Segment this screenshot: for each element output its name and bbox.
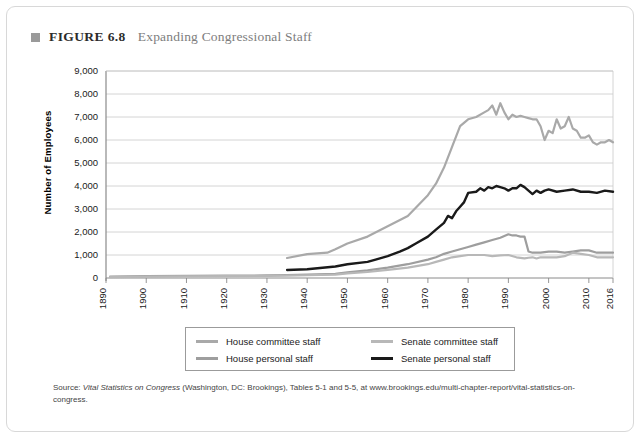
x-axis-tick-label: 1920: [218, 288, 229, 309]
x-axis-tick-label: 2000: [540, 288, 551, 309]
legend-row: House personal staff Senate personal sta…: [196, 350, 504, 367]
x-axis-tick-label: 2010: [580, 288, 591, 309]
legend-item-senate-personal-staff[interactable]: Senate personal staff: [371, 353, 491, 364]
legend-item-house-personal-staff[interactable]: House personal staff: [196, 353, 371, 364]
x-axis-tick-label: 1910: [178, 288, 189, 309]
legend-swatch-icon: [196, 340, 218, 343]
x-axis-tick-label: 1980: [459, 288, 470, 309]
y-axis-tick-label: 3,000: [74, 203, 98, 214]
x-axis-tick-label: 1950: [338, 288, 349, 309]
legend-label: Senate personal staff: [401, 353, 491, 364]
legend-item-senate-committee-staff[interactable]: Senate committee staff: [371, 336, 498, 347]
legend-label: Senate committee staff: [401, 336, 498, 347]
x-axis-tick-label: 2016: [604, 288, 615, 309]
x-axis-tick-label: 1900: [137, 288, 148, 309]
y-axis-tick-label: 9,000: [74, 65, 98, 76]
series-line: [110, 253, 613, 277]
x-axis-tick-label: 1990: [499, 288, 510, 309]
x-axis-tick-label: 1930: [258, 288, 269, 309]
y-axis-title: Number of Employees: [42, 83, 53, 243]
legend-swatch-icon: [196, 357, 218, 360]
source-prefix: Source:: [53, 383, 83, 392]
y-axis-tick-label: 8,000: [74, 88, 98, 99]
legend-label: House personal staff: [226, 353, 313, 364]
series-line: [110, 234, 613, 276]
y-axis-tick-label: 7,000: [74, 111, 98, 122]
x-axis-tick-label: 1970: [419, 288, 430, 309]
y-axis-tick-label: 2,000: [74, 226, 98, 237]
legend-swatch-icon: [371, 357, 393, 360]
x-axis-tick-label: 1940: [298, 288, 309, 309]
source-title: Vital Statistics on Congress: [83, 383, 180, 392]
y-axis-tick-label: 5,000: [74, 157, 98, 168]
legend-label: House committee staff: [226, 336, 320, 347]
chart-legend: House committee staff Senate committee s…: [185, 327, 515, 371]
series-line: [287, 103, 613, 258]
x-axis-tick-label: 1890: [97, 288, 108, 309]
y-axis-tick-label: 6,000: [74, 134, 98, 145]
figure-card: FIGURE 6.8 Expanding Congressional Staff…: [6, 6, 634, 432]
x-axis-tick-label: 1960: [379, 288, 390, 309]
legend-row: House committee staff Senate committee s…: [196, 333, 504, 350]
y-axis-tick-label: 1,000: [74, 249, 98, 260]
legend-swatch-icon: [371, 340, 393, 343]
y-axis-tick-label: 0: [93, 272, 98, 283]
source-note: Source: Vital Statistics on Congress (Wa…: [53, 382, 593, 405]
y-axis-tick-label: 4,000: [74, 180, 98, 191]
legend-item-house-committee-staff[interactable]: House committee staff: [196, 336, 371, 347]
